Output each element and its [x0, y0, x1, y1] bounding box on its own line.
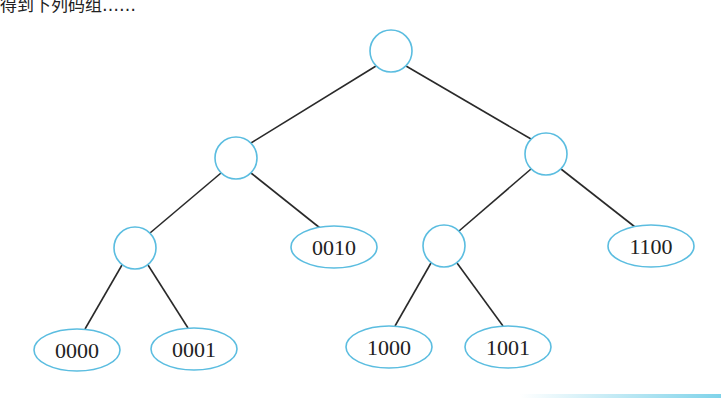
- leaf-label: 1001: [486, 335, 530, 360]
- leaf-node-1000: 1000: [346, 326, 432, 368]
- leaf-node-0000: 0000: [34, 329, 120, 371]
- edge-right-1100: [561, 169, 635, 227]
- edge-rightleft-1000: [395, 263, 431, 326]
- leaf-label: 1000: [367, 335, 411, 360]
- decorative-bottom-bar: [520, 394, 721, 398]
- leaf-label: 1100: [629, 234, 672, 259]
- leaf-node-0001: 0001: [151, 328, 237, 370]
- edge-left-leftleft: [150, 173, 221, 233]
- edge-left-0010: [251, 173, 320, 228]
- tree-node-left: [215, 137, 257, 179]
- leaf-label: 0010: [312, 235, 356, 260]
- edge-rightleft-1001: [457, 263, 503, 326]
- leaf-node-0010: 0010: [291, 226, 377, 268]
- tree-node-right-left: [423, 225, 465, 267]
- leaf-node-1001: 1001: [465, 326, 551, 368]
- leaf-node-1100: 1100: [608, 225, 694, 267]
- tree-node-right: [525, 133, 567, 175]
- edge-root-right: [406, 66, 531, 139]
- tree-edges: [85, 66, 635, 329]
- edge-root-left: [251, 66, 376, 143]
- tree-node-root: [370, 30, 412, 72]
- leaf-label: 0000: [55, 338, 99, 363]
- edge-leftleft-0000: [85, 265, 122, 329]
- leaf-label: 0001: [172, 337, 216, 362]
- tree-node-left-left: [114, 227, 156, 269]
- edge-leftleft-0001: [148, 265, 188, 328]
- binary-code-tree: 0010 1100 0000 0001 1000 1001: [0, 0, 721, 398]
- edge-right-rightleft: [459, 169, 531, 231]
